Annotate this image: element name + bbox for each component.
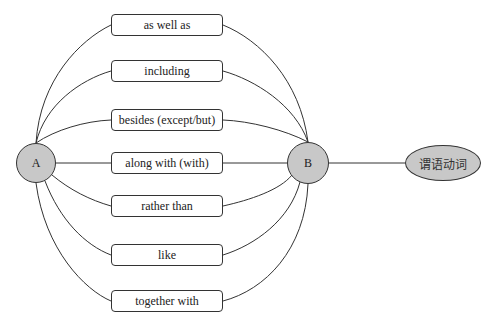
target-ellipse: 谓语动词 — [405, 145, 481, 181]
connector-label: as well as — [144, 18, 191, 33]
connector-label: like — [158, 248, 176, 263]
connector-box: as well as — [111, 14, 223, 36]
connector-label: together with — [135, 294, 199, 309]
connector-box: along with (with) — [111, 152, 223, 174]
connector-box: besides (except/but) — [111, 109, 223, 131]
connector-label: rather than — [141, 199, 193, 214]
connector-box: including — [111, 60, 223, 82]
node-b: B — [287, 142, 329, 184]
connector-box: together with — [111, 290, 223, 312]
connector-label: including — [144, 64, 189, 79]
connector-box: rather than — [111, 195, 223, 217]
connector-label: besides (except/but) — [119, 113, 215, 128]
target-label: 谓语动词 — [419, 155, 467, 172]
connector-label: along with (with) — [125, 156, 208, 171]
connector-box: like — [111, 244, 223, 266]
node-a-label: A — [32, 156, 41, 171]
node-b-label: B — [304, 156, 312, 171]
node-a: A — [16, 143, 56, 183]
